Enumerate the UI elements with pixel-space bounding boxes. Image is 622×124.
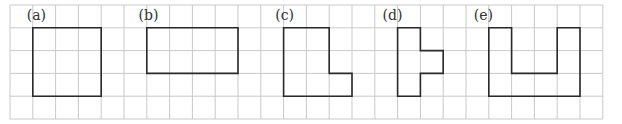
figure-label: (c): [275, 7, 294, 23]
figure-d: (d): [382, 7, 443, 96]
figure-label: (d): [382, 7, 402, 23]
figure-label: (b): [139, 7, 159, 23]
square-grid: [10, 5, 603, 119]
grid-diagram: (a)(b)(c)(d)(e): [0, 0, 622, 124]
figure-label: (a): [27, 7, 46, 23]
figure-e: (e): [474, 7, 580, 96]
figure-b: (b): [139, 7, 238, 73]
figure-outline: [284, 28, 352, 96]
figure-c: (c): [275, 7, 352, 96]
figure-label: (e): [474, 7, 493, 23]
figure-outline: [33, 28, 101, 96]
figures: (a)(b)(c)(d)(e): [27, 7, 580, 96]
figure-a: (a): [27, 7, 101, 96]
